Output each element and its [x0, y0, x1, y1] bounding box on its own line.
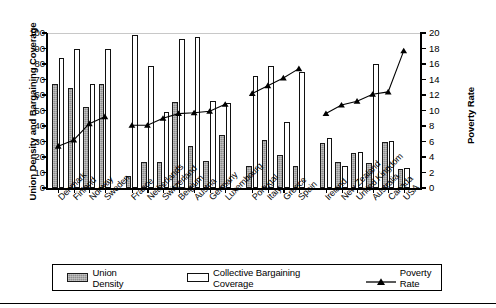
y-axis-left-tick-label: 40 [19, 121, 45, 131]
y-axis-left-tick-label: 100 [19, 28, 45, 38]
y-axis-left-tick-label: 70 [19, 75, 45, 85]
legend-swatch-poverty-rate [366, 273, 396, 283]
y-axis-left-tick-label: 20 [19, 152, 45, 162]
y-axis-right-tick-label: 4 [429, 152, 451, 162]
legend-item-poverty-rate: Poverty Rate [366, 267, 441, 289]
poverty-rate-marker [222, 101, 229, 107]
y-axis-left-tick-label: 90 [19, 44, 45, 54]
poverty-rate-polyline [326, 51, 404, 114]
poverty-rate-marker [101, 114, 108, 120]
y-axis-left-tick-label: 60 [19, 90, 45, 100]
poverty-rate-marker [55, 143, 62, 149]
y-axis-right-tick-label: 18 [429, 44, 451, 54]
y-axis-right-tick-label: 14 [429, 75, 451, 85]
y-axis-right-tick-label: 6 [429, 137, 451, 147]
poverty-rate-line [46, 33, 421, 188]
y-axis-right-tick-label: 2 [429, 168, 451, 178]
legend-item-union-density: Union Density [67, 267, 141, 289]
y-axis-left-tick-label: 10 [19, 168, 45, 178]
y-axis-left-tick-label: 0 [19, 183, 45, 193]
y-axis-left-tick-label: 80 [19, 59, 45, 69]
y-axis-right-tick-label: 20 [429, 28, 451, 38]
y-axis-right-tick-label: 10 [429, 106, 451, 116]
legend-label-poverty-rate: Poverty Rate [400, 267, 441, 289]
poverty-rate-marker [400, 48, 407, 54]
y-axis-left-tick-label: 30 [19, 137, 45, 147]
legend-label-collective-bargaining-coverage: Collective Bargaining Coverage [213, 267, 324, 289]
y-axis-right-tick-label: 16 [429, 59, 451, 69]
legend-label-union-density: Union Density [92, 267, 141, 289]
poverty-rate-polyline [58, 117, 105, 146]
poverty-rate-marker [280, 75, 287, 81]
poverty-rate-marker [323, 111, 330, 117]
legend-item-collective-bargaining-coverage: Collective Bargaining Coverage [187, 267, 323, 289]
y-axis-right-tick-label: 8 [429, 121, 451, 131]
y-axis-left-tick-label: 50 [19, 106, 45, 116]
y-axis-right-title: Poverty Rate [465, 66, 476, 166]
legend-swatch-collective-bargaining-coverage [187, 273, 209, 282]
footer-divider [0, 303, 496, 304]
poverty-rate-marker [86, 121, 93, 127]
poverty-rate-marker [354, 98, 361, 104]
chart-container: Union Density and Bargaining Coverage Po… [0, 0, 496, 308]
poverty-rate-marker [296, 66, 303, 72]
chart-legend: Union Density Collective Bargaining Cove… [52, 264, 442, 291]
poverty-rate-polyline [252, 69, 299, 94]
y-axis-right-tick-label: 0 [429, 183, 451, 193]
poverty-rate-marker [264, 83, 271, 89]
plot-area [46, 33, 421, 188]
legend-swatch-union-density [67, 273, 88, 282]
poverty-rate-marker [249, 90, 256, 96]
y-axis-right-tick-label: 12 [429, 90, 451, 100]
poverty-rate-marker [385, 89, 392, 95]
